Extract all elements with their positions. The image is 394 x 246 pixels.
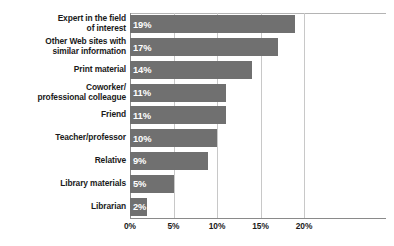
bar-value-label: 19% bbox=[130, 19, 151, 30]
x-tick-label: 10% bbox=[209, 221, 225, 231]
x-axis-line bbox=[130, 218, 386, 219]
bar-row: Coworker/professional colleague11% bbox=[0, 81, 394, 104]
bar-row: Library materials5% bbox=[0, 172, 394, 195]
x-tick-label: 15% bbox=[252, 221, 268, 231]
category-label-text: Coworker/professional colleague bbox=[37, 83, 126, 103]
category-label-text: Relative bbox=[95, 156, 126, 166]
category-label: Relative bbox=[2, 150, 126, 173]
category-label-text: Friend bbox=[101, 110, 126, 120]
category-label: Other Web sites withsimilar information bbox=[2, 36, 126, 59]
category-label-text: Other Web sites withsimilar information bbox=[45, 37, 126, 57]
bar-row: Expert in the fieldof interest19% bbox=[0, 13, 394, 36]
x-axis-tick-labels: 0%5%10%15%20% bbox=[0, 221, 394, 235]
category-label: Expert in the fieldof interest bbox=[2, 13, 126, 36]
category-label-text: Expert in the fieldof interest bbox=[58, 14, 126, 34]
bar-value-label: 10% bbox=[130, 133, 151, 144]
bar: 14% bbox=[130, 61, 252, 79]
category-label: Print material bbox=[2, 59, 126, 82]
bar-value-label: 2% bbox=[130, 201, 146, 212]
bar: 2% bbox=[130, 198, 147, 216]
x-tick-label: 0% bbox=[124, 221, 136, 231]
category-label: Coworker/professional colleague bbox=[2, 81, 126, 104]
bar-value-label: 11% bbox=[130, 110, 151, 121]
bar-chart: Expert in the fieldof interest19%Other W… bbox=[0, 0, 394, 246]
category-label: Teacher/professor bbox=[2, 127, 126, 150]
category-label: Librarian bbox=[2, 195, 126, 218]
category-label-text: Library materials bbox=[60, 179, 126, 189]
bar: 9% bbox=[130, 152, 208, 170]
bar-value-label: 11% bbox=[130, 87, 151, 98]
category-label-text: Teacher/professor bbox=[55, 133, 126, 143]
bar-value-label: 5% bbox=[130, 178, 146, 189]
bar: 5% bbox=[130, 175, 174, 193]
bar-row: Friend11% bbox=[0, 104, 394, 127]
bar: 11% bbox=[130, 106, 226, 124]
category-label-text: Print material bbox=[74, 65, 126, 75]
bar: 19% bbox=[130, 15, 295, 33]
category-label: Library materials bbox=[2, 172, 126, 195]
bar-row: Print material14% bbox=[0, 59, 394, 82]
bar-value-label: 17% bbox=[130, 42, 151, 53]
bar: 17% bbox=[130, 38, 278, 56]
x-tick-label: 5% bbox=[168, 221, 180, 231]
category-label: Friend bbox=[2, 104, 126, 127]
bar: 11% bbox=[130, 84, 226, 102]
bar-row: Relative9% bbox=[0, 150, 394, 173]
bar-row: Librarian2% bbox=[0, 195, 394, 218]
category-label-text: Librarian bbox=[91, 202, 126, 212]
bar: 10% bbox=[130, 129, 217, 147]
x-tick-label: 20% bbox=[296, 221, 312, 231]
bar-rows: Expert in the fieldof interest19%Other W… bbox=[0, 13, 394, 218]
bar-value-label: 14% bbox=[130, 64, 151, 75]
bar-row: Teacher/professor10% bbox=[0, 127, 394, 150]
bar-row: Other Web sites withsimilar information1… bbox=[0, 36, 394, 59]
bar-value-label: 9% bbox=[130, 155, 146, 166]
